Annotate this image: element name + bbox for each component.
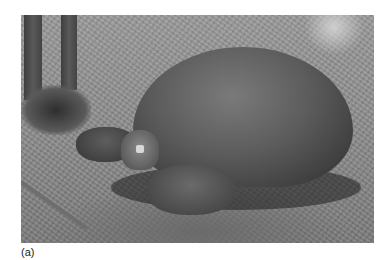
fern-shrub <box>21 85 91 135</box>
fallen-branch <box>21 180 88 229</box>
tortoise-shell <box>133 47 353 187</box>
tortoise-mouth <box>136 145 144 153</box>
tortoise-leg <box>146 165 236 215</box>
tree-trunk <box>61 15 77 90</box>
tortoise-photo <box>21 15 374 243</box>
background-plant <box>304 15 364 55</box>
figure-label: (a) <box>21 246 34 258</box>
